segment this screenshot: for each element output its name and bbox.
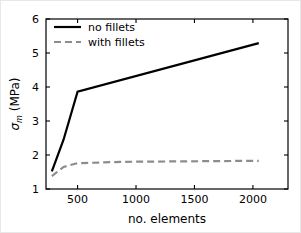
y-axis-subscript: m xyxy=(15,115,24,123)
y-tick-label: 1 xyxy=(32,183,39,196)
x-axis-title: no. elements xyxy=(128,212,206,226)
x-tick-label: 1500 xyxy=(180,193,208,206)
y-tick-label: 5 xyxy=(32,47,39,60)
x-tick-label: 1000 xyxy=(122,193,150,206)
y-tick-label: 6 xyxy=(32,13,39,26)
x-tick-label: 500 xyxy=(67,193,88,206)
x-tick-label: 2000 xyxy=(239,193,267,206)
x-tick-labels: 500100015002000 xyxy=(67,193,267,206)
y-tick-label: 2 xyxy=(32,149,39,162)
legend-label-no-fillets: no fillets xyxy=(88,21,135,34)
y-tick-label: 4 xyxy=(32,81,39,94)
y-axis-title: σm (MPa) xyxy=(8,77,24,130)
y-tick-labels: 123456 xyxy=(32,13,39,196)
legend-label-with-fillets: with fillets xyxy=(88,36,145,49)
chart-figure: 500100015002000 123456 no. elements σm (… xyxy=(0,0,301,233)
y-tick-label: 3 xyxy=(32,115,39,128)
svg-text:σm (MPa): σm (MPa) xyxy=(8,77,24,130)
chart-plot-area: 500100015002000 123456 no. elements σm (… xyxy=(1,1,301,233)
y-axis-unit: (MPa) xyxy=(8,77,22,111)
